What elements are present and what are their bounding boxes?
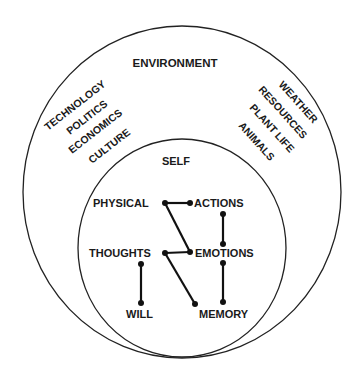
edge-physical-emotions	[165, 203, 190, 252]
dot-emotions-left	[187, 249, 193, 255]
node-emotions: EMOTIONS	[195, 247, 254, 259]
dot-actions-left	[187, 200, 193, 206]
environment-label: ENVIRONMENT	[133, 57, 218, 69]
dot-thoughts-bottom	[138, 261, 144, 267]
dot-will-top	[138, 300, 144, 306]
dot-emotions-bottom	[220, 260, 226, 266]
dot-memory-top	[220, 299, 226, 305]
self-environment-diagram: ENVIRONMENT SELF TECHNOLOGY POLITICS ECO…	[0, 0, 362, 378]
node-memory: MEMORY	[199, 308, 249, 320]
node-actions: ACTIONS	[194, 197, 244, 209]
dot-thoughts-right	[162, 250, 168, 256]
node-will: WILL	[126, 308, 153, 320]
dot-memory-diagonal	[192, 301, 198, 307]
node-physical: PHYSICAL	[93, 197, 149, 209]
dot-physical	[162, 200, 168, 206]
edge-thoughts-memory	[165, 253, 195, 304]
environment-circle	[23, 26, 341, 358]
edge-thoughts-emotions	[165, 252, 190, 253]
self-label: SELF	[162, 155, 190, 167]
node-thoughts: THOUGHTS	[89, 247, 151, 259]
dot-actions-bottom	[220, 211, 226, 217]
